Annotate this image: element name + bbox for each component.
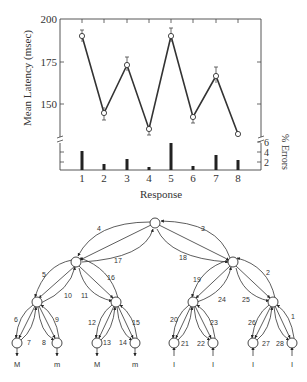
edge-label-15: 15 [132, 319, 140, 326]
subtree-2 [96, 305, 137, 340]
leaf-node-6 [208, 338, 218, 348]
y-tick-200: 200 [41, 13, 58, 25]
leaf-label-3: M [94, 360, 100, 369]
x-tick-4: 4 [146, 172, 152, 184]
latency-error-whiskers [80, 28, 238, 137]
edge-label-9: 9 [55, 316, 59, 323]
leaf-node-8 [287, 338, 297, 348]
node-l3-4 [268, 297, 278, 307]
x-tick-8: 8 [235, 172, 241, 184]
y-tick-150: 150 [41, 98, 58, 110]
node-l2-left [71, 257, 81, 267]
node-l3-2 [111, 297, 121, 307]
edge-label-14: 14 [119, 339, 127, 346]
node-l3-3 [188, 297, 198, 307]
leaf-label-5: I [173, 360, 175, 369]
edge-label-27: 27 [262, 340, 270, 347]
edge-label-17: 17 [114, 257, 122, 264]
leaf-node-7 [248, 338, 258, 348]
edge-label-7: 7 [27, 339, 31, 346]
node-root [150, 218, 160, 228]
edge-label-2: 2 [266, 269, 270, 276]
leaf-label-4: m [132, 360, 138, 369]
edge-label-28: 28 [276, 340, 284, 347]
leaf-output-arrows [17, 347, 292, 356]
node-l3-1 [32, 297, 42, 307]
leaf-label-2: m [54, 360, 60, 369]
leaf-node-2 [52, 338, 62, 348]
latency-chart: 200 175 150 Mean Latency (msec) 6 4 2 % … [21, 13, 291, 200]
leaf-node-1 [12, 338, 22, 348]
edge-label-22: 22 [197, 340, 205, 347]
edge-label-26: 26 [248, 319, 256, 326]
subtree-4 [252, 305, 294, 340]
edge-label-19: 19 [193, 276, 201, 283]
x-tick-1: 1 [79, 172, 85, 184]
leaf-label-1: M [14, 360, 20, 369]
leaf-label-8: I [291, 360, 293, 369]
edge-label-11: 11 [81, 292, 88, 299]
leaf-labels: M m M m I I I I [14, 360, 293, 369]
edge-label-16: 16 [107, 274, 115, 281]
x-axis-label: Response [140, 188, 182, 200]
x-tick-5: 5 [168, 172, 174, 184]
leaf-node-3 [92, 338, 102, 348]
edge-label-4: 4 [97, 225, 101, 232]
edge-label-1: 1 [291, 313, 295, 320]
edge-label-25: 25 [242, 296, 250, 303]
edge-label-18: 18 [179, 254, 187, 261]
y2-tick-2: 2 [264, 157, 269, 168]
x-tick-2: 2 [101, 172, 107, 184]
edge-label-10: 10 [64, 292, 72, 299]
figure: 200 175 150 Mean Latency (msec) 6 4 2 % … [0, 0, 307, 382]
edge-labels: 1 2 3 4 5 6 7 8 9 10 11 12 13 14 15 16 1… [14, 225, 295, 347]
tree-diagram [12, 218, 297, 356]
edge-label-23: 23 [210, 319, 218, 326]
y2-axis-label: % Errors [280, 134, 291, 170]
node-l2-right [228, 257, 238, 267]
subtree-3 [173, 305, 215, 340]
x-tick-3: 3 [124, 172, 130, 184]
edge-label-20: 20 [170, 316, 178, 323]
edge-label-24: 24 [218, 296, 226, 303]
edge-label-3: 3 [201, 225, 205, 232]
leaf-node-4 [130, 338, 140, 348]
subtree-1 [16, 305, 59, 340]
edge-label-6: 6 [14, 316, 18, 323]
edge-label-13: 13 [103, 339, 111, 346]
x-tick-7: 7 [213, 172, 219, 184]
leaf-label-6: I [212, 360, 214, 369]
latency-line [82, 36, 238, 134]
axis-break-left [57, 136, 63, 142]
x-tick-labels: 1 2 3 4 5 6 7 8 [79, 172, 241, 184]
x-tick-6: 6 [190, 172, 196, 184]
edge-label-12: 12 [88, 319, 96, 326]
leaf-label-7: I [252, 360, 254, 369]
y-axis-label: Mean Latency (msec) [21, 30, 34, 126]
edge-label-5: 5 [42, 271, 46, 278]
leaf-node-5 [169, 338, 179, 348]
edge-label-21: 21 [181, 340, 189, 347]
error-rate-bars [81, 143, 240, 170]
edge-label-8: 8 [42, 339, 46, 346]
y-tick-175: 175 [41, 56, 58, 68]
chart-frame [60, 19, 261, 170]
